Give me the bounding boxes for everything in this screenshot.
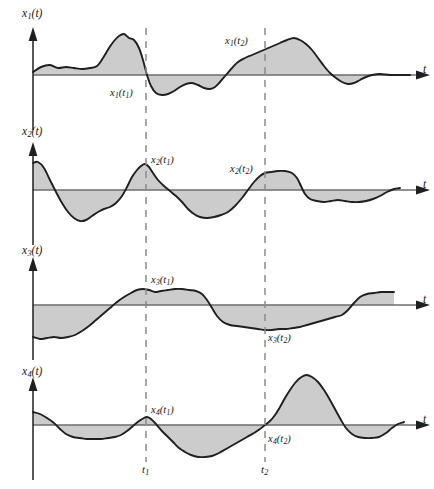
tick-label-t2: t2 <box>261 464 268 477</box>
panel-3-point-label-t1: x3(t1) <box>151 275 174 287</box>
panel-3-time-axis-label: t <box>423 294 426 306</box>
panel-2-point-label-t1: x2(t1) <box>151 155 174 167</box>
panel-4-point-label-t1: x4(t1) <box>151 405 174 417</box>
panel-1-time-axis-label: t <box>423 64 426 76</box>
panel-3-amplitude-axis-arrowhead <box>29 257 38 271</box>
panel-1-amplitude-axis-arrowhead <box>29 27 38 41</box>
panel-2-plot <box>29 142 430 245</box>
panel-3-plot <box>29 257 430 360</box>
panel-4-axis-label: x4(t) <box>22 366 42 380</box>
panel-2-axis-label: x2(t) <box>22 126 42 140</box>
ensemble-waveform-figure <box>0 0 434 489</box>
panel-1-shaded-area <box>33 34 410 95</box>
waveform-canvas <box>0 0 434 489</box>
panel-2-amplitude-axis-arrowhead <box>29 142 38 156</box>
panel-1-point-label-t1: x1(t1) <box>110 88 133 100</box>
panel-3-axis-label: x3(t) <box>22 245 42 259</box>
panel-4-plot <box>29 375 430 480</box>
panel-1-waveform <box>33 34 410 95</box>
panel-1-point-label-t2: x1(t2) <box>225 36 248 48</box>
tick-label-t1: t1 <box>142 464 149 477</box>
panel-2-point-label-t2: x2(t2) <box>230 164 253 176</box>
panel-1-axis-label: x1(t) <box>22 8 42 22</box>
panel-3-shaded-area <box>33 289 394 339</box>
panel-4-time-axis-label: t <box>423 414 426 426</box>
panel-2-shaded-area <box>33 162 400 221</box>
panel-3-point-label-t2: x3(t2) <box>268 333 291 345</box>
panel-4-point-label-t2: x4(t2) <box>268 434 291 446</box>
panel-4-shaded-area <box>33 375 404 457</box>
panel-2-time-axis-label: t <box>423 179 426 191</box>
